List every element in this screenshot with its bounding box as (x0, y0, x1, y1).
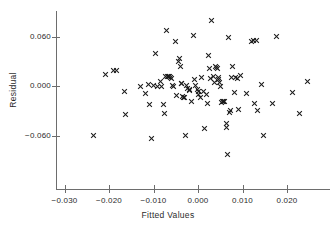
x-tick-label: 0.020 (262, 196, 312, 205)
scatter-point (214, 65, 221, 72)
scatter-point (170, 83, 177, 90)
scatter-point (243, 90, 250, 97)
scatter-point (190, 32, 197, 39)
scatter-point (158, 83, 165, 90)
scatter-point (211, 79, 218, 86)
scatter-point (179, 93, 186, 100)
scatter-point (213, 64, 220, 71)
scatter-point (198, 74, 205, 81)
scatter-point (219, 98, 226, 105)
scatter-point (212, 63, 219, 70)
scatter-point (192, 82, 199, 89)
scatter-point (122, 111, 129, 118)
scatter-point (194, 86, 201, 93)
scatter-point (226, 109, 233, 116)
x-axis-title: Fitted Values (0, 210, 336, 220)
scatter-point (165, 73, 172, 80)
scatter-point (167, 74, 174, 81)
scatter-point (231, 89, 238, 96)
scatter-point (216, 79, 223, 86)
x-tick-label: −0.020 (84, 196, 134, 205)
scatter-point (160, 101, 167, 108)
x-tick-label: 0.000 (173, 196, 223, 205)
scatter-point (234, 75, 241, 82)
scatter-point (221, 98, 228, 105)
scatter-point (168, 75, 175, 82)
scatter-point (210, 73, 217, 80)
y-tick-mark (52, 136, 60, 137)
scatter-point (217, 83, 224, 90)
scatter-point (228, 74, 235, 81)
scatter-point (188, 98, 195, 105)
scatter-point (142, 90, 149, 97)
scatter-point (237, 72, 244, 79)
scatter-point (232, 74, 239, 81)
y-tick-mark (52, 37, 60, 38)
x-tick-label: 0.010 (218, 196, 268, 205)
scatter-point (227, 107, 234, 114)
scatter-point (250, 37, 257, 44)
x-tick-label: −0.030 (40, 196, 90, 205)
scatter-point (162, 73, 169, 80)
x-tick-mark (243, 185, 244, 193)
scatter-point (161, 110, 168, 117)
scatter-point (191, 76, 198, 83)
scatter-point (208, 17, 215, 24)
scatter-point (225, 34, 232, 41)
scatter-point (110, 67, 117, 74)
y-tick-mark (52, 86, 60, 87)
scatter-point (253, 37, 260, 44)
y-axis-title: Residual (8, 55, 18, 125)
scatter-point (248, 38, 255, 45)
scatter-point (235, 106, 242, 113)
scatter-point (177, 63, 184, 70)
scatter-point (150, 82, 157, 89)
scatter-point (166, 73, 173, 80)
scatter-point (176, 55, 183, 62)
scatter-point (201, 125, 208, 132)
x-tick-mark (109, 185, 110, 193)
scatter-point (200, 88, 207, 95)
scatter-point (223, 120, 230, 127)
scatter-point (273, 33, 280, 40)
scatter-point (224, 151, 231, 158)
scatter-point (260, 132, 267, 139)
x-tick-mark (287, 185, 288, 193)
scatter-point (183, 82, 190, 89)
y-axis-line (56, 11, 57, 189)
scatter-point (146, 101, 153, 108)
scatter-point (154, 83, 161, 90)
scatter-point (207, 75, 214, 82)
scatter-point (182, 132, 189, 139)
scatter-point (195, 88, 202, 95)
y-tick-label: −0.060 (5, 131, 51, 140)
scatter-plot-figure: 0.0600.000−0.060−0.030−0.020−0.0100.0000… (0, 0, 336, 226)
scatter-point (90, 132, 97, 139)
scatter-point (137, 83, 144, 90)
scatter-point (204, 100, 211, 107)
scatter-point (205, 52, 212, 59)
scatter-point (152, 50, 159, 57)
scatter-point (296, 110, 303, 117)
y-tick-label: 0.060 (5, 32, 51, 41)
scatter-point (157, 78, 164, 85)
scatter-point (215, 76, 222, 83)
scatter-point (269, 100, 276, 107)
scatter-point (184, 85, 191, 92)
scatter-point (220, 98, 227, 105)
scatter-point (181, 94, 188, 101)
scatter-point (289, 89, 296, 96)
scatter-point (251, 100, 258, 107)
x-tick-label: −0.010 (129, 196, 179, 205)
scatter-point (172, 38, 179, 45)
scatter-point (186, 87, 193, 94)
scatter-point (195, 91, 202, 98)
scatter-point (215, 74, 222, 81)
scatter-point (164, 73, 171, 80)
scatter-point (121, 88, 128, 95)
scatter-point (229, 63, 236, 70)
scatter-point (163, 27, 170, 34)
scatter-point (180, 94, 187, 101)
x-tick-mark (65, 185, 66, 193)
scatter-point (203, 91, 210, 98)
